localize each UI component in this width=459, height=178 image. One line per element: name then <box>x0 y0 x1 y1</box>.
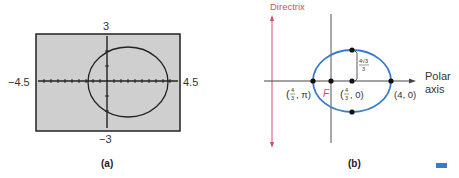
semi-minor-bracket <box>355 51 357 81</box>
point-focus <box>328 78 333 83</box>
svg-text:, 0): , 0) <box>350 89 364 100</box>
svg-text:(: ( <box>286 88 290 100</box>
label-left-vertex: ( 4 3 , π) <box>286 87 311 101</box>
axis-label: axis <box>425 83 445 95</box>
point-right-vertex <box>388 78 393 83</box>
point-center <box>349 78 354 83</box>
directrix-arrow-down-icon <box>270 142 274 148</box>
directrix-arrow-up-icon <box>270 15 274 21</box>
caption-a: (a) <box>101 158 113 169</box>
directrix-label: Directrix <box>270 1 305 12</box>
label-center: ( 4 3 , 0) <box>340 87 364 101</box>
focus-label: F <box>323 88 330 99</box>
figure-a: 3 −3 −4.5 4.5 (a) <box>8 20 198 169</box>
end-marker <box>436 163 447 168</box>
semi-minor-den: 3 <box>362 66 365 72</box>
figure-b: Directrix Polar axis 4√3 3 F ( 4 <box>264 1 451 169</box>
semi-minor-num: 4√3 <box>359 58 368 64</box>
svg-text:(: ( <box>340 88 344 100</box>
svg-text:4: 4 <box>291 87 294 93</box>
svg-text:, π): , π) <box>296 89 311 100</box>
svg-text:3: 3 <box>345 95 348 101</box>
xmax-label: 4.5 <box>183 76 198 88</box>
polar-label: Polar <box>425 70 451 82</box>
point-bottom <box>349 109 354 114</box>
caption-b: (b) <box>348 158 361 169</box>
ymin-label: −3 <box>99 133 112 145</box>
point-top <box>349 47 354 52</box>
label-right-vertex: (4, 0) <box>394 89 416 100</box>
ymax-label: 3 <box>103 20 109 32</box>
point-left-vertex <box>310 78 315 83</box>
xmin-label: −4.5 <box>8 76 30 88</box>
svg-text:4: 4 <box>345 87 348 93</box>
svg-text:3: 3 <box>291 95 294 101</box>
polar-axis-arrow-icon <box>409 79 416 84</box>
figure-canvas: 3 −3 −4.5 4.5 (a) Directrix Polar axis 4… <box>0 0 459 178</box>
